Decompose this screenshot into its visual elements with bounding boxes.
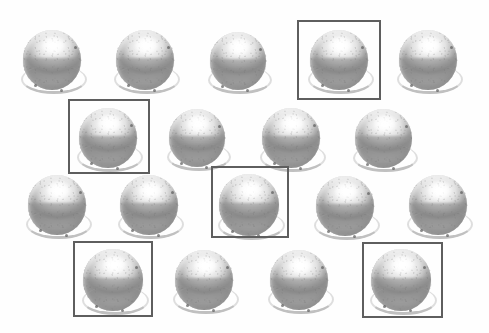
sphere-highlight (46, 181, 70, 200)
sphere-rim-nick (299, 167, 302, 170)
sphere-highlight (288, 256, 312, 275)
sphere-rim-nick (153, 89, 156, 92)
sphere-rim-lip (21, 65, 86, 94)
sphere-rim-nick (392, 167, 395, 170)
sphere-rim-lip (173, 285, 238, 314)
sphere[interactable] (404, 171, 472, 239)
selection-box[interactable] (362, 242, 443, 318)
sphere-rim-nick (307, 309, 310, 312)
sphere-highlight (373, 114, 397, 133)
selection-box[interactable] (68, 99, 150, 174)
sphere-rim-nick (246, 89, 249, 92)
sphere-highlight (227, 37, 251, 55)
sphere-rim-nick (157, 234, 160, 237)
sphere-rim-lip (114, 65, 179, 94)
sphere-highlight (193, 256, 217, 275)
sphere[interactable] (115, 171, 183, 239)
sphere-rim-nick (366, 163, 369, 166)
sphere[interactable] (257, 104, 325, 172)
sphere-rim-nick (436, 89, 439, 92)
sphere-rim-nick (60, 89, 63, 92)
sphere-highlight (186, 114, 210, 132)
selection-box[interactable] (297, 20, 381, 100)
sphere-highlight (280, 114, 304, 133)
sphere-rim-nick (259, 48, 262, 51)
sphere-highlight (417, 36, 441, 55)
sphere-rim-nick (205, 166, 208, 169)
sphere-highlight (427, 181, 451, 200)
sphere-rim-lip (314, 211, 379, 240)
sphere-grid-canvas (0, 0, 489, 333)
sphere-rim-nick (212, 309, 215, 312)
sphere[interactable] (265, 246, 333, 314)
sphere[interactable] (205, 28, 271, 94)
sphere[interactable] (350, 105, 417, 172)
sphere-rim-nick (218, 125, 221, 128)
sphere-highlight (134, 36, 158, 55)
selection-box[interactable] (73, 241, 153, 317)
sphere-rim-nick (221, 85, 224, 88)
sphere[interactable] (23, 171, 91, 239)
sphere-rim-lip (397, 65, 462, 94)
sphere[interactable] (111, 26, 179, 94)
sphere[interactable] (164, 105, 230, 171)
sphere[interactable] (170, 246, 238, 314)
sphere[interactable] (18, 26, 86, 94)
sphere-rim-lip (208, 66, 271, 94)
sphere-highlight (41, 36, 65, 55)
sphere-rim-nick (180, 162, 183, 165)
sphere-rim-lip (118, 210, 183, 239)
sphere-highlight (138, 181, 162, 200)
sphere[interactable] (311, 172, 379, 240)
sphere-rim-nick (446, 234, 449, 237)
sphere-rim-nick (65, 234, 68, 237)
sphere[interactable] (394, 26, 462, 94)
selection-box[interactable] (211, 166, 289, 238)
sphere-rim-lip (26, 210, 91, 239)
sphere-rim-lip (268, 285, 333, 314)
sphere-rim-nick (353, 235, 356, 238)
sphere-rim-lip (353, 144, 417, 172)
sphere-rim-lip (407, 210, 472, 239)
sphere-highlight (334, 182, 358, 201)
